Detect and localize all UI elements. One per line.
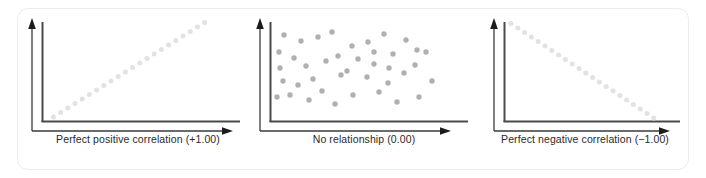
caption-no-relationship: No relationship (0.00) xyxy=(246,133,482,145)
panel-perfect-negative: Perfect negative correlation (−1.00) xyxy=(480,9,690,171)
axis-arrows-positive xyxy=(28,18,233,135)
correlation-scatterplot-figure: Perfect positive correlation (+1.00) xyxy=(0,0,706,178)
caption-perfect-positive: Perfect positive correlation (+1.00) xyxy=(18,133,258,145)
plot-no-relationship xyxy=(246,9,482,171)
axis-arrows-negative xyxy=(490,18,670,135)
panel-no-relationship: No relationship (0.00) xyxy=(246,9,482,171)
axis-frame-no-relationship xyxy=(270,22,469,122)
axis-frame-positive xyxy=(42,22,241,122)
panel-perfect-positive: Perfect positive correlation (+1.00) xyxy=(18,9,258,171)
data-dots-no-relationship xyxy=(274,29,434,106)
data-dots-negative xyxy=(509,21,657,121)
figure-card: Perfect positive correlation (+1.00) xyxy=(17,8,689,170)
plot-perfect-negative xyxy=(480,9,690,171)
data-dots-positive xyxy=(51,20,207,120)
plot-perfect-positive xyxy=(18,9,258,171)
caption-perfect-negative: Perfect negative correlation (−1.00) xyxy=(480,133,690,145)
